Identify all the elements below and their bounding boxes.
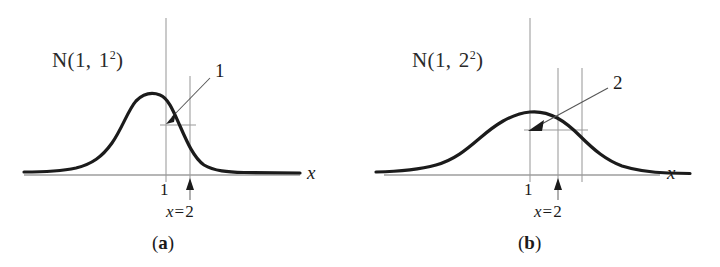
- bell-curve-b: [376, 112, 690, 174]
- distribution-name-a: N(1,: [52, 48, 92, 72]
- sigma-leader-line: [538, 88, 608, 126]
- point-label-b: x=2: [534, 202, 562, 222]
- distribution-close-paren-a: ): [116, 48, 123, 72]
- distribution-name-b: N(1,: [412, 48, 452, 72]
- mean-tick-label-a: 1: [160, 180, 169, 200]
- sigma-value-label-b: 2: [613, 72, 623, 94]
- distribution-sigma-a: 1: [99, 48, 110, 72]
- distribution-label-b: N(1, 22): [412, 48, 483, 73]
- point-value-b: 2: [553, 202, 562, 221]
- caption-letter-b: b: [524, 232, 535, 253]
- point-equals-a: =: [174, 202, 186, 221]
- panel-a-plot: [0, 0, 360, 267]
- point-equals-b: =: [542, 202, 554, 221]
- caption-a: (a): [152, 232, 174, 254]
- sigma-value-label-a: 1: [215, 60, 225, 82]
- sigma-leader-line: [172, 78, 210, 117]
- caption-close-paren-a: ): [168, 232, 174, 253]
- panel-b-plot: [360, 0, 720, 267]
- normal-distribution-figure: N(1, 12) 1 1 x=2 x (a): [0, 0, 720, 267]
- bell-curve-a: [24, 93, 300, 173]
- point-variable-b: x: [534, 202, 542, 221]
- point-arrow-head: [554, 178, 562, 190]
- distribution-label-a: N(1, 12): [52, 48, 123, 73]
- sigma-leader-arrowhead: [166, 112, 176, 124]
- point-label-a: x=2: [166, 202, 194, 222]
- mean-tick-label-b: 1: [524, 180, 533, 200]
- x-axis-variable-b: x: [667, 162, 675, 184]
- caption-b: (b): [518, 232, 541, 254]
- panel-a: N(1, 12) 1 1 x=2 x (a): [0, 0, 360, 267]
- x-axis-variable-a: x: [307, 162, 315, 184]
- caption-letter-a: a: [158, 232, 168, 253]
- caption-close-paren-b: ): [535, 232, 541, 253]
- panel-b: N(1, 22) 2 1 x=2 x (b): [360, 0, 720, 267]
- point-value-a: 2: [185, 202, 194, 221]
- point-arrow-head: [186, 178, 194, 190]
- point-variable-a: x: [166, 202, 174, 221]
- distribution-close-paren-b: ): [476, 48, 483, 72]
- distribution-sigma-b: 2: [459, 48, 470, 72]
